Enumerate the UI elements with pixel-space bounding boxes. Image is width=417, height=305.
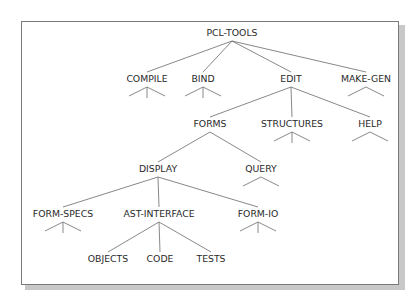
tree-diagram: PCL-TOOLSCOMPILEBINDEDITMAKE-GENFORMSSTR… xyxy=(0,0,417,305)
edge-pcl-tools-to-make-gen xyxy=(232,41,366,72)
node-form-io: FORM-IO xyxy=(238,208,279,219)
node-ast-interface: AST-INTERFACE xyxy=(123,208,194,219)
edge-ast-interface-to-code xyxy=(159,222,160,252)
node-forms: FORMS xyxy=(193,118,226,129)
node-bind: BIND xyxy=(191,73,214,84)
node-form-specs: FORM-SPECS xyxy=(33,208,93,219)
edge-ast-interface-to-objects xyxy=(108,222,159,252)
node-pcl-tools: PCL-TOOLS xyxy=(206,27,257,38)
edge-edit-to-help xyxy=(291,87,370,117)
compile-collapsed-subtree-icon xyxy=(129,87,165,98)
node-structures: STRUCTURES xyxy=(261,118,323,129)
tree-edges xyxy=(63,41,370,252)
node-help: HELP xyxy=(358,118,382,129)
edge-forms-to-display xyxy=(158,132,210,162)
edge-pcl-tools-to-bind xyxy=(203,41,232,72)
node-query: QUERY xyxy=(245,163,277,174)
edge-display-to-form-specs xyxy=(63,177,158,207)
node-edit: EDIT xyxy=(280,73,302,84)
node-make-gen: MAKE-GEN xyxy=(341,73,391,84)
node-display: DISPLAY xyxy=(139,163,177,174)
edge-pcl-tools-to-compile xyxy=(147,41,232,72)
edge-ast-interface-to-tests xyxy=(159,222,211,252)
edge-pcl-tools-to-edit xyxy=(232,41,291,72)
node-tests: TESTS xyxy=(195,253,225,264)
make-gen-collapsed-subtree-icon xyxy=(348,87,384,96)
form-io-collapsed-subtree-icon xyxy=(240,222,276,233)
structures-collapsed-subtree-icon xyxy=(274,132,310,143)
query-collapsed-subtree-icon xyxy=(243,177,279,186)
help-collapsed-subtree-icon xyxy=(352,132,388,141)
collapsed-subtree-markers xyxy=(45,87,388,233)
node-code: CODE xyxy=(147,253,174,264)
form-specs-collapsed-subtree-icon xyxy=(45,222,81,233)
node-compile: COMPILE xyxy=(126,73,167,84)
edge-display-to-form-io xyxy=(158,177,258,207)
edge-edit-to-forms xyxy=(210,87,291,117)
node-objects: OBJECTS xyxy=(88,253,128,264)
edge-display-to-ast-interface xyxy=(158,177,159,207)
bind-collapsed-subtree-icon xyxy=(185,87,221,98)
edge-forms-to-query xyxy=(210,132,261,162)
edge-edit-to-structures xyxy=(291,87,292,117)
